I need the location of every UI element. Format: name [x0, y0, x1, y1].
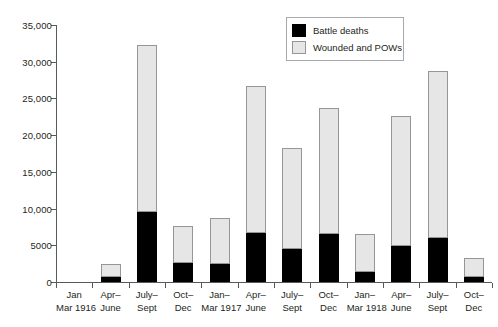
y-axis-tick-label: 10,000 — [22, 203, 52, 214]
legend-label: Wounded and POWs — [313, 42, 402, 53]
bar-segment-wounded-and-pows — [282, 148, 302, 249]
bar-segment-battle-deaths — [428, 238, 448, 282]
bar-segment-wounded-and-pows — [391, 116, 411, 246]
y-axis-tick-label: 5000 — [30, 240, 52, 251]
x-axis-label: Oct–Dec — [310, 289, 346, 314]
bar-segment-wounded-and-pows — [464, 258, 484, 277]
legend-item-battle-deaths: Battle deaths — [292, 22, 398, 39]
bar-segment-battle-deaths — [464, 277, 484, 282]
bar-segment-battle-deaths — [210, 264, 230, 282]
x-axis-label: July–Sept — [129, 289, 165, 314]
legend-item-wounded-and-pows: Wounded and POWs — [292, 39, 398, 56]
x-axis-tick-mark — [383, 283, 384, 288]
bar-4 — [173, 226, 193, 282]
bar-segment-wounded-and-pows — [319, 108, 339, 234]
x-axis-tick-mark — [419, 283, 420, 288]
y-axis-tick-label: 0 — [47, 277, 52, 288]
bar-segment-battle-deaths — [137, 212, 157, 282]
legend-label: Battle deaths — [313, 25, 368, 36]
bar-segment-battle-deaths — [355, 272, 375, 282]
x-axis-label: Apr–June — [92, 289, 128, 314]
x-axis-tick-mark — [56, 283, 57, 288]
bar-segment-battle-deaths — [391, 246, 411, 282]
x-axis-tick-mark — [129, 283, 130, 288]
x-axis-label: Oct–Dec — [456, 289, 492, 314]
bar-segment-battle-deaths — [101, 277, 121, 282]
x-axis-tick-mark — [201, 283, 202, 288]
bar-9 — [355, 234, 375, 282]
x-axis-label: Apr–June — [383, 289, 419, 314]
light-gray-square-swatch-icon — [292, 41, 306, 54]
bar-2 — [101, 264, 121, 282]
bar-3 — [137, 45, 157, 282]
bar-segment-wounded-and-pows — [101, 264, 121, 277]
y-axis-tick-label: 30,000 — [22, 56, 52, 67]
y-axis-tick-label: 15,000 — [22, 166, 52, 177]
bar-10 — [391, 116, 411, 282]
bar-6 — [246, 86, 266, 282]
bar-segment-wounded-and-pows — [246, 86, 266, 233]
bar-segment-wounded-and-pows — [137, 45, 157, 212]
x-axis-label: Jan–Mar 1918 — [347, 289, 383, 314]
y-axis-tick-label: 20,000 — [22, 130, 52, 141]
x-axis-tick-mark — [492, 283, 493, 288]
bar-segment-battle-deaths — [282, 249, 302, 282]
x-axis-tick-mark — [274, 283, 275, 288]
bar-chart: 0500010,00015,00020,00025,00030,00035,00… — [0, 0, 498, 327]
bar-7 — [282, 148, 302, 282]
black-square-swatch-icon — [292, 24, 306, 37]
x-axis-tick-mark — [310, 283, 311, 288]
bar-segment-battle-deaths — [319, 234, 339, 282]
x-axis-tick-mark — [92, 283, 93, 288]
bar-segment-battle-deaths — [246, 233, 266, 282]
x-axis-label: Jan–Mar 1917 — [201, 289, 237, 314]
y-axis-tick-label: 35,000 — [22, 20, 52, 31]
x-axis-tick-mark — [238, 283, 239, 288]
bar-11 — [428, 71, 448, 282]
x-axis-tick-mark — [456, 283, 457, 288]
bar-segment-wounded-and-pows — [210, 218, 230, 264]
x-axis-label: July–Sept — [274, 289, 310, 314]
bar-5 — [210, 218, 230, 282]
bar-segment-wounded-and-pows — [355, 234, 375, 272]
bar-12 — [464, 258, 484, 282]
bar-segment-wounded-and-pows — [173, 226, 193, 263]
x-axis-label: July–Sept — [419, 289, 455, 314]
x-axis-label: Apr–June — [238, 289, 274, 314]
x-axis-tick-mark — [347, 283, 348, 288]
x-axis-label: Oct–Dec — [165, 289, 201, 314]
bar-segment-battle-deaths — [173, 263, 193, 282]
y-axis-tick-label: 25,000 — [22, 93, 52, 104]
chart-legend: Battle deaths Wounded and POWs — [286, 17, 404, 61]
bar-8 — [319, 108, 339, 282]
x-axis-tick-mark — [165, 283, 166, 288]
plot-area — [56, 25, 492, 282]
bar-segment-wounded-and-pows — [428, 71, 448, 238]
x-axis-label: JanMar 1916 — [56, 289, 92, 314]
